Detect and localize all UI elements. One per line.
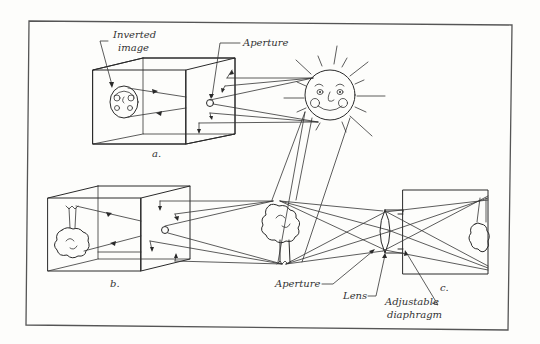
panel-c-lens-camera [380,190,489,274]
diagram-canvas: Inverted image Aperture a. b. c. Apertur… [0,0,540,344]
label-aperture-top: Aperture [242,37,289,48]
label-panel-b: b. [110,278,120,289]
label-diaphragm-line2: diaphragm [387,309,442,320]
rays-tree-to-lens [280,201,388,264]
labels: Inverted image Aperture a. b. c. Apertur… [100,29,449,320]
optics-diagram: Inverted image Aperture a. b. c. Apertur… [0,0,540,344]
label-inverted-line2: image [118,42,149,53]
label-lens: Lens [342,290,367,301]
label-diaphragm-line1: Adjustable [384,296,439,307]
inverted-tree-image-camera [469,198,489,252]
aperture-a [207,100,214,107]
rays-tree-to-box-b [150,201,282,264]
panel-b-pinhole-box [48,186,190,271]
label-panel-a: a. [152,148,161,159]
tree-object [262,204,300,264]
rays-sun-to-tree [272,112,350,262]
label-panel-c: c. [440,282,449,293]
aperture-b [162,227,169,234]
inverted-sun-image [110,86,138,118]
label-aperture-bottom: Aperture [274,278,321,289]
panel-a-pinhole-box [93,58,235,144]
inverted-tree-image [55,206,90,258]
rays-sun-to-box-a [197,70,318,134]
label-inverted-line1: Inverted [112,29,156,40]
